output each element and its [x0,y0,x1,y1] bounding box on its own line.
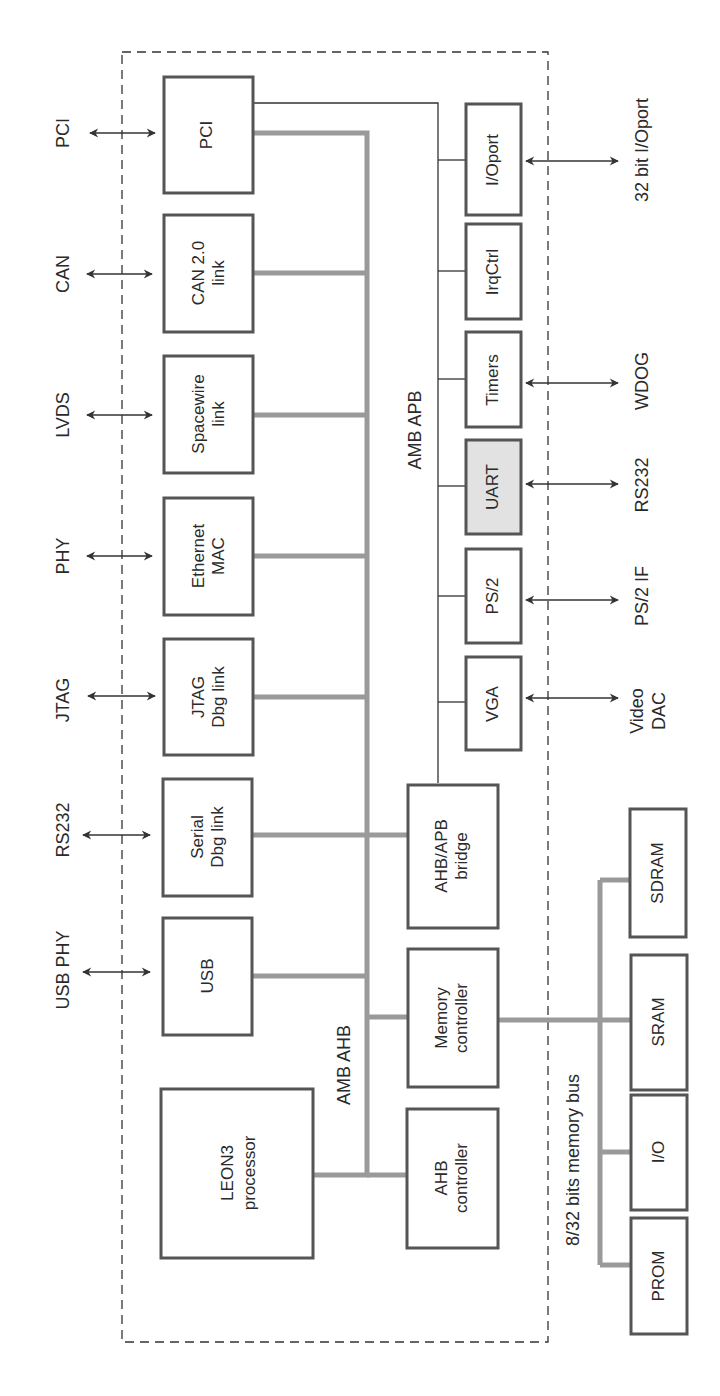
svg-text:Spacewire: Spacewire [189,374,208,453]
svg-text:32 bit I/Oport: 32 bit I/Oport [632,98,652,202]
apb-bus-label: AMB APB [405,390,425,469]
external-labels-right: 32 bit I/Oport WDOG RS232 PS/2 IF Video … [627,98,669,734]
block-serial: Serial Dbg link [163,779,252,896]
leon3-block-diagram: PCI CAN 2.0 link Spacewire link Ethernet… [0,0,720,1396]
block-label: PCI [197,121,216,149]
block-sram: SRAM [631,955,687,1090]
apb-bus [253,103,466,783]
ahb-bus [253,133,408,1175]
svg-text:I/O: I/O [649,1141,668,1164]
svg-text:PS/2: PS/2 [483,578,502,615]
svg-text:Memory: Memory [432,987,451,1049]
svg-text:PROM: PROM [649,1251,668,1302]
svg-text:VGA: VGA [483,685,502,722]
block-leon3-processor: LEON3 processor [161,1089,313,1258]
ahb-bus-label: AMB AHB [334,1025,354,1105]
svg-text:I/Oport: I/Oport [483,134,502,186]
block-ioport: I/Oport [466,104,521,215]
svg-text:Video: Video [627,688,647,734]
svg-text:Dbg link: Dbg link [209,666,228,728]
block-spacewire: Spacewire link [164,356,253,473]
svg-text:UART: UART [483,464,502,510]
svg-text:controller: controller [452,1143,471,1213]
svg-text:SRAM: SRAM [649,997,668,1046]
svg-text:DAC: DAC [649,692,669,730]
svg-text:USB: USB [198,959,217,994]
svg-text:JTAG: JTAG [53,678,73,723]
svg-text:RS232: RS232 [632,457,652,512]
block-usb: USB [163,918,252,1035]
svg-text:RS232: RS232 [53,802,73,857]
block-irqctrl: IrqCtrl [466,224,521,319]
svg-text:Dbg link: Dbg link [208,806,227,868]
svg-text:Timers: Timers [483,354,502,405]
svg-text:AHB/APB: AHB/APB [432,819,451,893]
svg-text:LVDS: LVDS [53,392,73,438]
svg-text:PHY: PHY [53,537,73,574]
memory-bus-label: 8/32 bits memory bus [563,1074,583,1246]
svg-text:CAN 2.0: CAN 2.0 [189,241,208,305]
block-ahb-controller: AHB controller [407,1109,498,1248]
svg-text:Serial: Serial [188,815,207,858]
svg-text:SDRAM: SDRAM [648,842,667,903]
external-arrows-left [83,133,155,972]
svg-text:bridge: bridge [452,832,471,879]
block-uart: UART [466,440,521,534]
block-ps2: PS/2 [466,549,521,643]
svg-text:link: link [209,260,228,286]
svg-text:CAN: CAN [53,255,73,293]
svg-text:Ethernet: Ethernet [189,524,208,589]
block-ethernet: Ethernet MAC [164,498,253,615]
block-ahb-apb-bridge: AHB/APB bridge [408,785,498,928]
svg-text:controller: controller [452,983,471,1053]
svg-text:AHB: AHB [432,1161,451,1196]
svg-text:IrqCtrl: IrqCtrl [483,249,502,295]
external-labels-left: PCI CAN LVDS PHY JTAG RS232 USB PHY [53,118,73,1010]
svg-text:USB PHY: USB PHY [53,930,73,1009]
block-sdram: SDRAM [630,809,686,937]
svg-text:LEON3: LEON3 [218,1145,237,1201]
external-arrows-right [526,161,618,698]
block-vga: VGA [466,657,521,750]
svg-text:MAC: MAC [209,537,228,575]
block-io: I/O [631,1095,687,1210]
block-jtag: JTAG Dbg link [164,639,253,755]
block-prom: PROM [631,1218,687,1334]
svg-text:WDOG: WDOG [632,352,652,410]
block-pci: PCI [164,77,253,193]
svg-text:link: link [209,401,228,427]
block-timers: Timers [466,332,521,427]
block-memory-controller: Memory controller [408,949,498,1087]
block-can: CAN 2.0 link [164,215,253,332]
svg-text:JTAG: JTAG [189,676,208,718]
svg-text:PCI: PCI [53,118,73,148]
svg-text:processor: processor [240,1135,259,1210]
svg-text:PS/2 IF: PS/2 IF [632,566,652,626]
